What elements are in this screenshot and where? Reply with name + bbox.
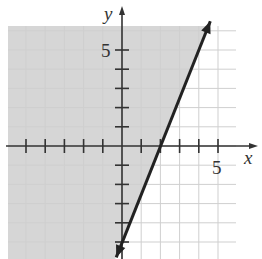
y-tick-label-5: 5 [101, 41, 111, 60]
x-tick-label-5: 5 [212, 158, 222, 177]
y-axis-label: y [104, 4, 112, 23]
inequality-graph [0, 0, 262, 259]
x-axis-label: x [244, 148, 252, 167]
